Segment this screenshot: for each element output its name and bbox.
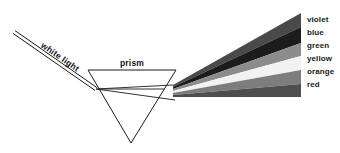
refracted-ray-upper <box>96 85 173 89</box>
prism-label: prism <box>120 58 144 68</box>
prism-outline <box>88 70 176 143</box>
spectrum-label-blue: blue <box>307 29 324 37</box>
prism-dispersion-diagram: white light prism violet blue green yell… <box>0 0 340 153</box>
spectrum-label-violet: violet <box>307 16 329 24</box>
ray-edge-upper <box>13 33 95 90</box>
spectrum-label-red: red <box>307 81 320 89</box>
prism-triangle <box>88 70 176 143</box>
spectrum-fan <box>173 13 301 97</box>
incident-white-light-ray <box>13 31 97 91</box>
spectrum-label-green: green <box>307 42 329 50</box>
diagram-canvas: white light prism <box>0 0 340 153</box>
spectrum-label-yellow: yellow <box>307 55 332 63</box>
spectrum-label-orange: orange <box>307 68 334 76</box>
white-light-label: white light <box>38 39 81 73</box>
refracted-ray-group <box>96 85 175 100</box>
